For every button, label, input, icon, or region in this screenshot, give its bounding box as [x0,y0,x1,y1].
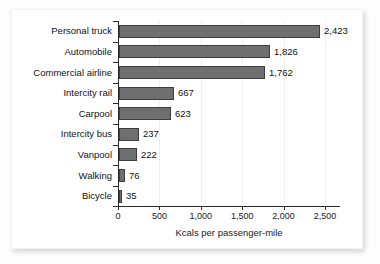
category-label: Carpool [8,108,112,119]
bar-value-label: 222 [141,149,157,160]
bar[interactable] [119,169,125,182]
category-label: Personal truck [8,25,112,36]
y-axis-tick [113,62,118,63]
category-label: Vanpool [8,149,112,160]
bar[interactable] [119,25,320,38]
bar-value-label: 623 [175,108,191,119]
bar-value-label: 35 [126,190,137,201]
bar-value-label: 237 [143,128,159,139]
x-axis-tick [284,206,285,210]
bar-value-label: 76 [129,170,140,181]
x-axis-tick-label: 1,500 [231,211,254,221]
y-axis-tick [113,124,118,125]
y-axis-tick [113,103,118,104]
x-axis-tick [118,206,119,210]
bar[interactable] [119,128,139,141]
x-axis-title: Kcals per passenger-mile [118,227,340,238]
bar[interactable] [119,87,174,100]
x-axis-tick-label: 1,000 [190,211,213,221]
category-label: Walking [8,170,112,181]
x-axis-tick-label: 2,500 [314,211,337,221]
bar[interactable] [119,148,137,161]
y-axis-tick [113,186,118,187]
y-axis-tick [113,165,118,166]
category-label: Automobile [8,46,112,57]
gridline [325,21,326,206]
plot-area: 05001,0001,5002,0002,500Kcals per passen… [0,0,380,264]
x-axis-tick-label: 500 [152,211,167,221]
category-label: Commercial airline [8,67,112,78]
bar[interactable] [119,66,265,79]
chart-figure: 05001,0001,5002,0002,500Kcals per passen… [0,0,380,264]
category-label: Intercity bus [8,128,112,139]
bar[interactable] [119,107,171,120]
bar-value-label: 2,423 [324,25,348,36]
category-label: Bicycle [8,190,112,201]
bar[interactable] [119,190,122,203]
y-axis-tick [113,21,118,22]
bar-value-label: 1,762 [269,67,293,78]
y-axis-tick [113,83,118,84]
x-axis-line [118,206,340,207]
y-axis-tick [113,145,118,146]
x-axis-tick [325,206,326,210]
bar-value-label: 1,826 [274,46,298,57]
category-label: Intercity rail [8,87,112,98]
x-axis-tick [242,206,243,210]
bar-value-label: 667 [178,87,194,98]
x-axis-tick-label: 0 [115,211,120,221]
x-axis-tick-label: 2,000 [272,211,295,221]
y-axis-tick [113,206,118,207]
x-axis-tick [159,206,160,210]
x-axis-tick [201,206,202,210]
y-axis-tick [113,42,118,43]
bar[interactable] [119,45,270,58]
